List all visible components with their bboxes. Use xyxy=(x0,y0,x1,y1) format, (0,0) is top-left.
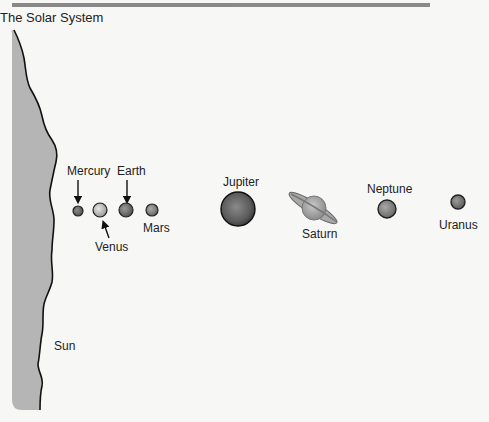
uranus-label: Uranus xyxy=(439,218,478,232)
jupiter-label: Jupiter xyxy=(223,175,259,189)
mars-planet xyxy=(146,204,158,216)
sun-shape xyxy=(11,30,56,410)
saturn-planet xyxy=(286,188,340,228)
earth-label: Earth xyxy=(117,164,146,178)
jupiter-planet xyxy=(221,192,255,226)
earth-planet xyxy=(119,203,133,217)
neptune-planet xyxy=(378,200,396,218)
solar-system-diagram xyxy=(0,0,489,422)
sun-label: Sun xyxy=(54,339,75,353)
mars-label: Mars xyxy=(143,221,170,235)
saturn-label: Saturn xyxy=(302,227,337,241)
mercury-label: Mercury xyxy=(67,164,110,178)
mercury-planet xyxy=(73,206,83,216)
venus-label: Venus xyxy=(95,240,128,254)
uranus-planet xyxy=(451,195,465,209)
venus-arrow xyxy=(104,224,109,238)
venus-planet xyxy=(93,203,107,217)
neptune-label: Neptune xyxy=(367,182,412,196)
